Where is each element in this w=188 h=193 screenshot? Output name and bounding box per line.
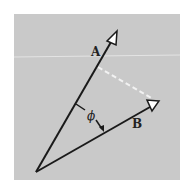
vector-a-label: A bbox=[90, 45, 101, 59]
angle-label: ϕ bbox=[87, 109, 95, 123]
angle-tick bbox=[76, 104, 85, 110]
vector-b-label: B bbox=[132, 117, 142, 131]
vector-a-arrowhead-icon bbox=[107, 31, 117, 45]
vector-a bbox=[36, 42, 111, 172]
projection-line bbox=[98, 67, 153, 99]
vector-diagram: A B ϕ bbox=[0, 0, 188, 193]
vector-b-arrowhead-icon bbox=[147, 100, 159, 111]
